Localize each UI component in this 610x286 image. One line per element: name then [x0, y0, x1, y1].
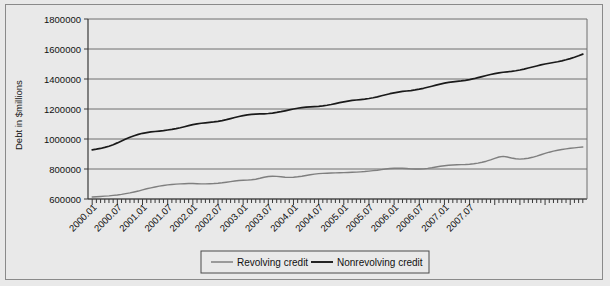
y-axis-tick-label: 1600000: [44, 44, 81, 55]
chart-figure: 6000008000001000000120000014000001600000…: [0, 0, 610, 286]
y-axis-tick-label: 1400000: [44, 74, 81, 85]
y-axis-tick-label: 800000: [49, 164, 81, 175]
line-chart: 6000008000001000000120000014000001600000…: [0, 0, 610, 286]
x-axis-tick-label: 2007.07: [444, 202, 476, 234]
y-axis-tick-label: 600000: [49, 194, 81, 205]
legend-label: Revolving credit: [237, 257, 308, 268]
y-axis-tick-label: 1000000: [44, 134, 81, 145]
y-axis-title: Debt in $millions: [13, 80, 24, 150]
y-axis-tick-label: 1800000: [44, 14, 81, 25]
legend-label: Nonrevolving credit: [337, 257, 423, 268]
y-axis-tick-label: 1200000: [44, 104, 81, 115]
